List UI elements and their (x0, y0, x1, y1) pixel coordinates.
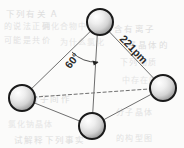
bond-left-right (22, 88, 163, 98)
atom-layer (9, 9, 176, 139)
bond-angle-label: 60° (62, 51, 81, 71)
bond-top-bottom (92, 22, 98, 126)
atom-bottom (79, 113, 105, 139)
molecular-geometry-figure: 下列有关 A的说法正确列化合物中中含有离子可能是共价为什么氯化子晶体的下列物质中… (0, 0, 184, 148)
atom-top (87, 9, 113, 35)
bond-top-left (22, 22, 100, 98)
bond-length-label: 221pm (117, 33, 150, 67)
tetrahedron-diagram: 221pm 60° (0, 0, 184, 148)
bond-layer (22, 22, 163, 126)
atom-left (9, 85, 35, 111)
atom-right (150, 75, 176, 101)
